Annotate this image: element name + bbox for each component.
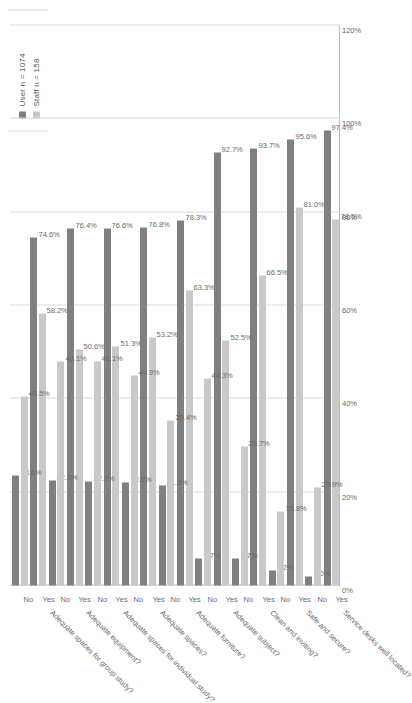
bar-rect[interactable] bbox=[39, 313, 46, 585]
response-tick-label: No bbox=[56, 589, 65, 599]
response-tick-label: Yes bbox=[148, 587, 157, 599]
category-label: Adequate equipment? bbox=[83, 538, 92, 611]
bar-rect[interactable] bbox=[167, 420, 174, 585]
bar-user[interactable] bbox=[30, 25, 37, 585]
chart-viewport: User n = 1074Staff n = 158 97.4%78.5%Yes… bbox=[0, 0, 412, 703]
bar-value-label: 40.5% bbox=[24, 372, 33, 393]
bar-user[interactable] bbox=[269, 25, 276, 585]
bar-user[interactable] bbox=[305, 25, 312, 585]
response-tick-label: Yes bbox=[294, 587, 303, 599]
bar-user[interactable] bbox=[12, 25, 19, 585]
bar-rect[interactable] bbox=[324, 130, 331, 585]
bar-user[interactable] bbox=[67, 25, 74, 585]
bar-user[interactable] bbox=[214, 25, 221, 585]
bar-rect[interactable] bbox=[314, 487, 321, 585]
bar-rect[interactable] bbox=[277, 511, 284, 585]
bar-value-label: 50.6% bbox=[79, 325, 88, 346]
category-label: Safe and secure? bbox=[303, 552, 312, 611]
response-tick-label: No bbox=[313, 589, 322, 599]
bar-value-label: 52.5% bbox=[226, 316, 235, 337]
category-label: Adequate spaces? bbox=[157, 549, 166, 611]
bar-staff[interactable] bbox=[57, 25, 64, 585]
bar-staff[interactable] bbox=[131, 25, 138, 585]
bar-staff[interactable] bbox=[314, 25, 321, 585]
bar-user[interactable] bbox=[250, 25, 257, 585]
category-label: Adequate furniture? bbox=[193, 545, 202, 611]
response-tick-label: Yes bbox=[74, 587, 83, 599]
bar-staff[interactable] bbox=[332, 25, 339, 585]
bar-value-label: 48.1% bbox=[61, 336, 70, 357]
bar-rect[interactable] bbox=[21, 396, 28, 585]
value-tick-label: 20% bbox=[342, 477, 351, 492]
bar-rect[interactable] bbox=[204, 378, 211, 585]
bar-rect[interactable] bbox=[287, 139, 294, 585]
bar-rect[interactable] bbox=[131, 375, 138, 585]
bar-rect[interactable] bbox=[250, 148, 257, 585]
bar-rect[interactable] bbox=[186, 290, 193, 585]
plot-area: 97.4%78.5%Yes2.0%20.9%NoService desks we… bbox=[10, 25, 340, 585]
bar-staff[interactable] bbox=[149, 25, 156, 585]
bar-rect[interactable] bbox=[140, 227, 147, 585]
bar-rect[interactable] bbox=[12, 475, 19, 585]
bar-staff[interactable] bbox=[94, 25, 101, 585]
value-axis-ticks: 0%20%40%60%80%100%120% bbox=[342, 25, 382, 585]
bar-value-label: 53.2% bbox=[152, 312, 161, 333]
response-tick-label: Yes bbox=[184, 587, 193, 599]
bar-user[interactable] bbox=[140, 25, 147, 585]
bar-staff[interactable] bbox=[259, 25, 266, 585]
bar-rect[interactable] bbox=[296, 207, 303, 585]
bar-value-label: 63.3% bbox=[189, 265, 198, 286]
response-tick-label: No bbox=[166, 589, 175, 599]
bar-user[interactable] bbox=[85, 25, 92, 585]
bar-value-label: 58.2% bbox=[42, 289, 51, 310]
category-label: Adequate subject? bbox=[230, 549, 239, 611]
bar-staff[interactable] bbox=[296, 25, 303, 585]
bar-staff[interactable] bbox=[167, 25, 174, 585]
value-tick-label: 60% bbox=[342, 290, 351, 305]
category-label: Adequate spaces for individual study? bbox=[120, 485, 129, 611]
response-tick-label: No bbox=[276, 589, 285, 599]
bar-user[interactable] bbox=[159, 25, 166, 585]
value-tick-label: 0% bbox=[342, 574, 351, 585]
bar-rect[interactable] bbox=[94, 361, 101, 585]
bar-staff[interactable] bbox=[112, 25, 119, 585]
value-tick-label: 80% bbox=[342, 197, 351, 212]
value-tick-label: 120% bbox=[342, 6, 351, 25]
bar-chart-canvas: User n = 1074Staff n = 158 97.4%78.5%Yes… bbox=[0, 0, 412, 703]
bar-value-label: 35.4% bbox=[171, 396, 180, 417]
bar-rect[interactable] bbox=[57, 361, 64, 585]
response-tick-label: No bbox=[19, 589, 28, 599]
response-tick-label: Yes bbox=[221, 587, 230, 599]
bar-staff[interactable] bbox=[222, 25, 229, 585]
bar-staff[interactable] bbox=[21, 25, 28, 585]
bar-value-label: 15.8% bbox=[281, 487, 290, 508]
bar-rect[interactable] bbox=[259, 275, 266, 585]
bar-staff[interactable] bbox=[186, 25, 193, 585]
response-tick-label: No bbox=[203, 589, 212, 599]
response-tick-label: No bbox=[129, 589, 138, 599]
bar-user[interactable] bbox=[232, 25, 239, 585]
bar-user[interactable] bbox=[177, 25, 184, 585]
bar-rect[interactable] bbox=[67, 228, 74, 585]
value-tick-label: 40% bbox=[342, 383, 351, 398]
bar-value-label: 20.9% bbox=[317, 463, 326, 484]
category-label: Clean and inviting? bbox=[267, 547, 276, 611]
bar-value-label: 66.5% bbox=[262, 250, 271, 271]
bar-value-label: 29.7% bbox=[244, 422, 253, 443]
bar-rect[interactable] bbox=[112, 346, 119, 585]
response-tick-label: Yes bbox=[111, 587, 120, 599]
bar-user[interactable] bbox=[104, 25, 111, 585]
bar-staff[interactable] bbox=[241, 25, 248, 585]
bar-rect[interactable] bbox=[241, 446, 248, 585]
bar-rect[interactable] bbox=[76, 349, 83, 585]
bar-rect[interactable] bbox=[104, 228, 111, 585]
value-tick-label: 100% bbox=[342, 99, 351, 118]
bar-user[interactable] bbox=[195, 25, 202, 585]
bar-rect[interactable] bbox=[332, 219, 339, 585]
bar-value-label: 44.3% bbox=[207, 354, 216, 375]
bar-staff[interactable] bbox=[204, 25, 211, 585]
bar-staff[interactable] bbox=[76, 25, 83, 585]
response-tick-label: Yes bbox=[331, 587, 340, 599]
bar-value-label: 44.9% bbox=[134, 351, 143, 372]
bar-rect[interactable] bbox=[30, 237, 37, 585]
